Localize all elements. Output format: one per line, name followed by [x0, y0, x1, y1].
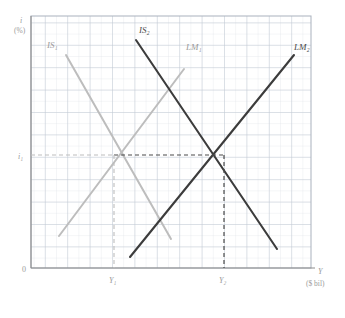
- is-lm-chart: IS₁ LM₁ IS₂ LM₂ i (%) Y ($ bil) 0 i₁ Y₁ …: [0, 0, 345, 318]
- chart-svg: IS₁ LM₁ IS₂ LM₂ i (%) Y ($ bil) 0 i₁ Y₁ …: [0, 0, 345, 318]
- grid: [31, 16, 311, 268]
- origin-label: 0: [22, 265, 26, 274]
- x-axis-unit: ($ bil): [306, 279, 325, 288]
- curve-label-lm1: LM₁: [185, 42, 202, 52]
- curve-label-lm2: LM₂: [293, 42, 310, 52]
- curve-label-is2: IS₂: [138, 25, 150, 35]
- y-axis-unit: (%): [14, 26, 26, 35]
- x-tick-label-y1: Y₁: [109, 276, 116, 285]
- y-axis-label: i: [20, 16, 22, 25]
- curve-label-is1: IS₁: [46, 40, 58, 50]
- x-tick-label-y2: Y₂: [219, 276, 226, 285]
- y-tick-label-i1: i₁: [18, 152, 23, 161]
